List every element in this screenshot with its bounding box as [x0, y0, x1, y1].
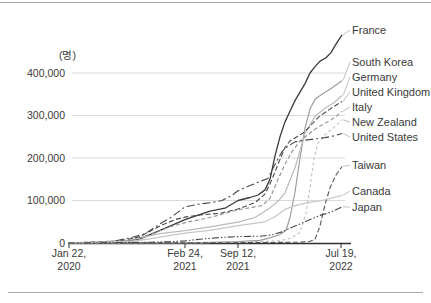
series-line-canada: [68, 195, 342, 243]
series-line-united-kingdom: [68, 102, 342, 244]
x-axis-tick-labels: Jan 22,2020Feb 24,2021Sep 12,2021Jul 19,…: [52, 247, 357, 272]
series-label: United States: [352, 131, 419, 143]
series-label: Taiwan: [352, 159, 386, 171]
leader-line: [343, 62, 350, 81]
series-line-italy: [68, 111, 342, 243]
chart-figure: (명) 0100,000200,000300,000400,000 Jan 22…: [0, 0, 431, 303]
series-lines: [68, 35, 342, 243]
y-tick-label: 200,000: [27, 152, 65, 164]
leader-line: [343, 77, 350, 96]
leader-line: [343, 120, 350, 122]
series-label: United Kingdom: [352, 86, 430, 98]
series-label: Japan: [352, 201, 382, 213]
x-tick-label: Jan 22,2020: [52, 247, 86, 272]
y-tick-label: 400,000: [27, 67, 65, 79]
series-line-france: [68, 35, 342, 243]
x-axis: [68, 244, 351, 249]
series-label: Canada: [352, 185, 391, 197]
leader-line: [343, 107, 350, 111]
bottom-border-rule: [8, 292, 423, 293]
series-line-new-zealand: [68, 120, 342, 243]
x-tick-label: Jul 19,2022: [326, 247, 357, 272]
series-label: Italy: [352, 101, 373, 113]
line-chart: 0100,000200,000300,000400,000 Jan 22,202…: [0, 0, 431, 303]
series-label: South Korea: [352, 56, 414, 68]
x-tick-label: Feb 24,2021: [167, 247, 203, 272]
series-labels: FranceSouth KoreaGermanyUnited KingdomIt…: [352, 24, 430, 213]
y-axis-tick-labels: 0100,000200,000300,000400,000: [27, 67, 65, 249]
leader-line: [343, 133, 350, 137]
label-leader-lines: [343, 30, 350, 207]
series-label: New Zealand: [352, 116, 417, 128]
leader-line: [343, 30, 350, 35]
leader-line: [343, 165, 350, 167]
y-tick-label: 100,000: [27, 194, 65, 206]
series-label: Germany: [352, 71, 398, 83]
series-line-germany: [68, 96, 342, 244]
y-tick-label: 300,000: [27, 109, 65, 121]
x-tick-label: Sep 12,2021: [220, 247, 256, 272]
series-label: France: [352, 24, 386, 36]
leader-line: [343, 191, 350, 195]
